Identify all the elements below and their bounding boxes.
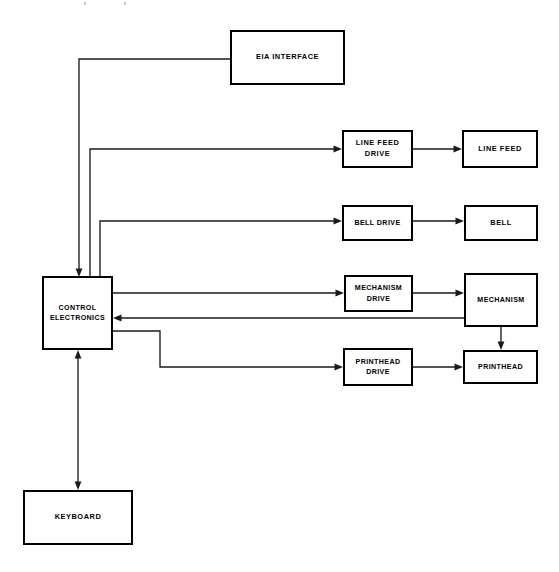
node-label-printhead-drive: PRINTHEAD DRIVE — [356, 357, 401, 377]
node-eia-interface[interactable]: EIA INTERFACE — [230, 30, 345, 85]
node-printhead-drive[interactable]: PRINTHEAD DRIVE — [343, 348, 413, 386]
node-label-keyboard: KEYBOARD — [55, 512, 102, 523]
node-printhead[interactable]: PRINTHEAD — [463, 350, 538, 384]
scan-artifact-speck — [124, 2, 126, 5]
node-label-printhead: PRINTHEAD — [478, 362, 523, 372]
node-mechanism-drive[interactable]: MECHANISM DRIVE — [344, 275, 413, 312]
node-label-bell: BELL — [490, 218, 512, 229]
node-label-bell-drive: BELL DRIVE — [354, 218, 400, 228]
node-bell[interactable]: BELL — [464, 205, 538, 241]
node-label-line-feed-drive: LINE FEED DRIVE — [356, 138, 400, 159]
connector-mechanism-drive-to-mechanism — [413, 290, 464, 297]
node-line-feed-drive[interactable]: LINE FEED DRIVE — [342, 130, 413, 168]
connector-printhead-drive-to-printhead — [413, 364, 463, 371]
node-keyboard[interactable]: KEYBOARD — [23, 490, 133, 545]
scan-artifact-speck — [84, 2, 86, 5]
connector-control-to-line-feed-drive — [90, 146, 342, 276]
connector-bell-drive-to-bell — [413, 218, 464, 225]
connector-control-to-bell-drive — [100, 218, 342, 276]
node-label-control-electronics: CONTROL ELECTRONICS — [50, 303, 105, 323]
node-label-eia-interface: EIA INTERFACE — [256, 52, 319, 63]
node-label-mechanism-drive: MECHANISM DRIVE — [355, 283, 402, 303]
node-label-line-feed: LINE FEED — [478, 144, 522, 155]
connector-keyboard-control-link — [75, 350, 82, 490]
connector-eia-to-control — [76, 59, 230, 277]
connector-mechanism-to-control — [113, 315, 464, 322]
connector-control-to-mechanism-drive — [113, 290, 344, 297]
connector-control-to-printhead-drive — [113, 331, 343, 370]
connector-line-feed-drive-to-line-feed — [413, 146, 462, 153]
node-label-mechanism: MECHANISM — [477, 295, 524, 305]
connector-mechanism-to-printhead — [498, 327, 505, 350]
node-control-electronics[interactable]: CONTROL ELECTRONICS — [42, 276, 113, 350]
node-line-feed[interactable]: LINE FEED — [462, 130, 538, 168]
node-mechanism[interactable]: MECHANISM — [464, 273, 538, 327]
node-bell-drive[interactable]: BELL DRIVE — [342, 205, 413, 241]
block-diagram: EIA INTERFACE LINE FEED DRIVE LINE FEED … — [0, 0, 559, 572]
